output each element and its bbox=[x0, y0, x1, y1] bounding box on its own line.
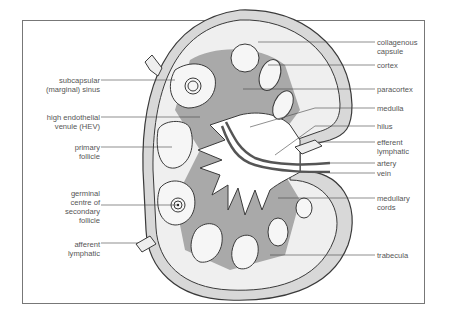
label-line: collagenous bbox=[377, 38, 418, 47]
label-line: primary bbox=[75, 143, 100, 152]
follicle-top bbox=[231, 44, 259, 72]
label-line: secondary bbox=[65, 207, 100, 216]
label-line: venule (HEV) bbox=[47, 122, 100, 131]
label-line: lymphatic bbox=[377, 147, 409, 156]
label-line: follicle bbox=[65, 216, 100, 225]
label-hev: high endothelial venule (HEV) bbox=[47, 113, 100, 131]
label-line: trabecula bbox=[377, 251, 408, 260]
label-hilus: hilus bbox=[377, 122, 393, 131]
label-line: lymphatic bbox=[68, 249, 100, 258]
secondary-follicle-shape bbox=[158, 181, 195, 225]
label-line: medulla bbox=[377, 104, 404, 113]
follicle-bottom-4 bbox=[296, 198, 312, 218]
label-paracortex: paracortex bbox=[377, 85, 413, 94]
label-line: germinal bbox=[65, 189, 100, 198]
label-line: centre of bbox=[65, 198, 100, 207]
label-cortex: cortex bbox=[377, 61, 398, 70]
label-line: efferent bbox=[377, 138, 409, 147]
label-line: medullary bbox=[377, 194, 410, 203]
label-line: cortex bbox=[377, 61, 398, 70]
label-line: hilus bbox=[377, 122, 393, 131]
label-vein: vein bbox=[377, 169, 391, 178]
label-medullary-cords: medullary cords bbox=[377, 194, 410, 212]
label-afferent-lymphatic: afferent lymphatic bbox=[68, 240, 100, 258]
label-primary-follicle: primary follicle bbox=[75, 143, 100, 161]
label-trabecula: trabecula bbox=[377, 251, 408, 260]
label-medulla: medulla bbox=[377, 104, 404, 113]
label-line: follicle bbox=[75, 152, 100, 161]
follicle-bottom-3 bbox=[268, 218, 288, 246]
label-line: cords bbox=[377, 203, 410, 212]
label-line: artery bbox=[377, 159, 396, 168]
label-subcapsular-sinus: subcapsular (marginal) sinus bbox=[46, 76, 100, 94]
label-line: high endothelial bbox=[47, 113, 100, 122]
label-artery: artery bbox=[377, 159, 396, 168]
label-line: subcapsular bbox=[46, 76, 100, 85]
label-collagenous-capsule: collagenous capsule bbox=[377, 38, 418, 56]
label-line: (marginal) sinus bbox=[46, 85, 100, 94]
label-line: capsule bbox=[377, 47, 418, 56]
label-line: paracortex bbox=[377, 85, 413, 94]
afferent-arrow-top bbox=[145, 55, 162, 76]
label-line: afferent bbox=[68, 240, 100, 249]
label-efferent-lymphatic: efferent lymphatic bbox=[377, 138, 409, 156]
label-germinal-centre: germinal centre of secondary follicle bbox=[65, 189, 100, 225]
label-line: vein bbox=[377, 169, 391, 178]
